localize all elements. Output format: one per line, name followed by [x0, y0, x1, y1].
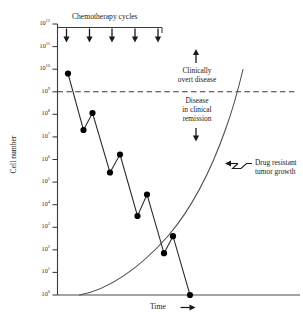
y-tick-label-10e8: 108 [26, 110, 50, 116]
leader-arrowhead [225, 161, 231, 167]
clinically-overt-disease-label: Clinically overt disease [166, 66, 228, 84]
resistant-line-2: tumor growth [255, 167, 303, 176]
chemo-arrow-3 [109, 29, 115, 43]
y-tick-label-10e3: 103 [26, 223, 50, 229]
resistant-line-1: Drug resistant [255, 158, 303, 167]
data-point-6 [134, 213, 140, 219]
chemo-bracket [58, 28, 163, 34]
chemo-dose-arrows [63, 29, 161, 43]
remission-line-2: in clinical [168, 105, 226, 114]
data-point-10 [187, 292, 193, 298]
figure-canvas: 1012 1011 1010 109 108 107 106 105 104 1… [0, 0, 303, 321]
data-point-7 [144, 191, 150, 197]
y-tick-label-10e7: 107 [26, 133, 50, 139]
chemo-arrow-4 [132, 29, 138, 43]
data-point-8 [161, 250, 167, 256]
data-point-5 [117, 151, 123, 157]
drug-resistant-leader-line [225, 161, 252, 169]
drug-resistant-tumor-growth-label: Drug resistant tumor growth [255, 158, 303, 176]
chemo-arrow-5 [155, 29, 161, 43]
clinical-remission-label: Disease in clinical remission [168, 96, 226, 124]
remission-line-3: remission [168, 114, 226, 123]
x-axis-title: Time [150, 302, 166, 311]
remission-line-1: Disease [168, 96, 226, 105]
y-tick-label-10e11: 1011 [26, 43, 50, 49]
y-tick-label-10e12: 1012 [26, 20, 50, 26]
y-axis-ticks [53, 24, 58, 295]
y-tick-label-10e1: 101 [26, 268, 50, 274]
time-arrow [181, 305, 196, 311]
y-tick-label-10e2: 102 [26, 246, 50, 252]
chemo-arrow-1 [63, 29, 69, 43]
clinical-remission-arrow-down [193, 128, 199, 142]
chemotherapy-cycles-label: Chemotherapy cycles [72, 12, 138, 21]
overt-line-1: Clinically [166, 66, 228, 75]
overt-line-2: overt disease [166, 75, 228, 84]
data-point-9 [170, 233, 176, 239]
y-axis-title: Cell number [9, 120, 18, 190]
data-point-1 [65, 70, 71, 76]
y-tick-label-10e10: 1010 [26, 65, 50, 71]
y-tick-label-10e0: 100 [26, 291, 50, 297]
data-point-2 [80, 127, 86, 133]
y-tick-label-10e9: 109 [26, 88, 50, 94]
y-tick-label-10e4: 104 [26, 201, 50, 207]
data-point-4 [107, 169, 113, 175]
clinically-overt-arrow-up [193, 49, 199, 63]
y-tick-label-10e6: 106 [26, 156, 50, 162]
y-tick-label-10e5: 105 [26, 178, 50, 184]
data-point-3 [89, 110, 95, 116]
chemo-arrow-2 [86, 29, 92, 43]
